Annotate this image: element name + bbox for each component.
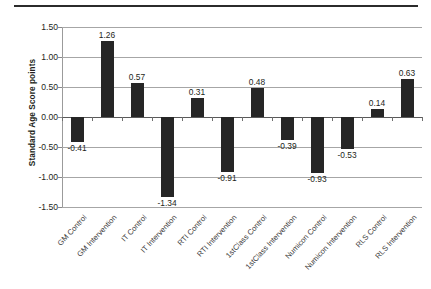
x-tick-mark (62, 117, 63, 121)
bar-value-label: -0.41 (67, 143, 86, 153)
x-axis-category-labels: GM ControlGM InterventionIT ControlIT In… (62, 207, 422, 289)
bar (101, 41, 114, 117)
y-tick-label: -1.00 (18, 172, 58, 182)
x-tick-mark (182, 117, 183, 121)
bar (221, 117, 234, 172)
x-tick-mark (152, 117, 153, 121)
x-tick-mark (302, 117, 303, 121)
bar (371, 109, 384, 117)
bar-value-label: -0.53 (337, 150, 356, 160)
bar (281, 117, 294, 140)
bar (341, 117, 354, 149)
bar (71, 117, 84, 142)
x-tick-mark (362, 117, 363, 121)
bar-value-label: -0.93 (307, 174, 326, 184)
bar (191, 98, 204, 117)
x-tick-mark (272, 117, 273, 121)
y-axis-tick-labels: 1.501.000.500.00-0.50-1.00-1.50 (14, 27, 58, 207)
x-category-label: 1stClass Intervention (244, 213, 299, 271)
bar-value-label: -0.39 (277, 141, 296, 151)
bar-value-label: 0.31 (189, 87, 205, 97)
x-tick-mark (242, 117, 243, 121)
bar (131, 83, 144, 117)
bar-value-label: 1.26 (99, 30, 115, 40)
bar (401, 79, 414, 117)
chart-figure: Standard Age Score points 1.501.000.500.… (0, 0, 431, 289)
y-tick-label: -0.50 (18, 142, 58, 152)
y-tick-label: 0.50 (18, 82, 58, 92)
x-tick-mark (212, 117, 213, 121)
plot-area: -0.411.260.57-1.340.31-0.910.48-0.39-0.9… (62, 27, 422, 207)
x-tick-mark (92, 117, 93, 121)
y-tick-label: -1.50 (18, 202, 58, 212)
bar-value-label: -0.91 (217, 173, 236, 183)
x-tick-mark (122, 117, 123, 121)
x-tick-mark (392, 117, 393, 121)
x-tick-mark (422, 117, 423, 121)
y-tick-label: 1.50 (18, 22, 58, 32)
bar-value-label: 0.63 (399, 68, 415, 78)
x-category-label: Numicon Intervention (303, 213, 359, 272)
y-tick-label: 0.00 (18, 112, 58, 122)
bar-value-label: 0.14 (369, 98, 385, 108)
bar-value-label: 0.57 (129, 72, 145, 82)
bar (161, 117, 174, 197)
x-category-label: IT Control (119, 213, 148, 243)
y-tick-label: 1.00 (18, 52, 58, 62)
bar (311, 117, 324, 173)
bar-series: -0.411.260.57-1.340.31-0.910.48-0.39-0.9… (62, 27, 422, 207)
bar (251, 88, 264, 117)
bar-value-label: 0.48 (249, 77, 265, 87)
x-tick-mark (332, 117, 333, 121)
top-divider-rule (14, 5, 418, 7)
